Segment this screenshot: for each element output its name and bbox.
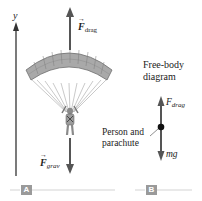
suspension-lines xyxy=(30,78,108,112)
person-parachute-label: Person and parachute xyxy=(102,127,144,149)
drag-force-symbol: F xyxy=(78,22,85,32)
drag-force-subscript: drag xyxy=(85,26,97,34)
title-line-1: Free-body xyxy=(143,59,184,71)
fbd-weight-label: mg xyxy=(166,150,178,160)
body-point-dot xyxy=(158,124,165,131)
y-axis-label: y xyxy=(13,11,17,21)
gravity-force-label: Fgrav xyxy=(40,158,60,170)
label-leader-line xyxy=(150,129,158,136)
parachute-free-body-figure: y Fdrag Fgrav Free-body diagram Fdrag mg… xyxy=(0,0,202,201)
title-line-2: diagram xyxy=(143,71,184,83)
body-label-line-2: parachute xyxy=(102,138,144,149)
parachute-canopy xyxy=(26,49,112,80)
y-axis-arrow xyxy=(13,22,19,176)
gravity-force-symbol: F xyxy=(40,158,47,168)
gravity-force-arrow xyxy=(66,138,74,174)
panel-a-badge: A xyxy=(21,185,32,195)
gravity-force-subscript: grav xyxy=(47,162,60,170)
panel-b-badge: B xyxy=(146,185,157,195)
free-body-diagram-title: Free-body diagram xyxy=(143,59,184,83)
body-label-line-1: Person and xyxy=(102,127,144,138)
fbd-drag-label: Fdrag xyxy=(166,98,185,109)
fbd-drag-subscript: drag xyxy=(172,101,185,109)
drag-force-arrow xyxy=(66,7,74,50)
drag-force-label: Fdrag xyxy=(78,22,97,34)
